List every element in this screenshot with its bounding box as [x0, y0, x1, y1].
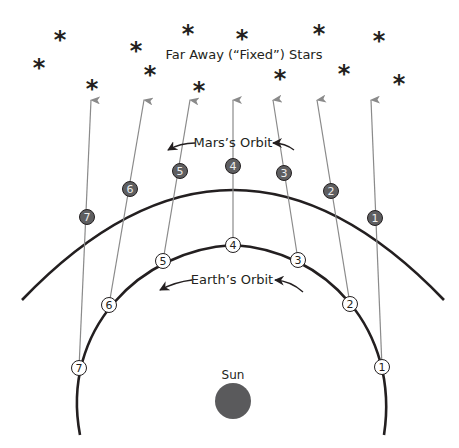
mars-position-7: 7	[79, 209, 95, 225]
star-icon: *	[274, 67, 287, 91]
star-icon: *	[338, 62, 351, 86]
star-icon: *	[373, 29, 386, 53]
star-icon: *	[54, 28, 67, 52]
mars-orbit-arrow-right	[273, 143, 294, 150]
star-icon: *	[130, 39, 143, 63]
earth-orbit-arrow-right	[275, 280, 303, 292]
mars-orbit-label: Mars’s Orbit	[194, 135, 273, 150]
star-icon: *	[313, 22, 326, 46]
star-icon: *	[182, 22, 195, 46]
star-icon: *	[193, 79, 206, 103]
earth-position-4: 4	[225, 237, 241, 253]
earth-position-7: 7	[71, 360, 87, 376]
retrograde-motion-diagram: Far Away (“Fixed”) Stars Mars’s Orbit Ea…	[0, 0, 459, 448]
star-icon: *	[236, 27, 249, 51]
mars-position-1: 1	[367, 210, 383, 226]
earth-position-5: 5	[155, 253, 171, 269]
sun-icon	[215, 383, 251, 419]
star-icon: *	[144, 63, 157, 87]
sight-line-7	[79, 100, 91, 368]
earth-position-3: 3	[290, 252, 306, 268]
star-icon: *	[86, 77, 99, 101]
mars-position-4: 4	[225, 158, 241, 174]
sun-label: Sun	[222, 368, 245, 382]
sight-line-6	[109, 100, 144, 305]
sight-line-1	[371, 100, 382, 367]
star-icon: *	[393, 72, 406, 96]
star-icon: *	[33, 56, 46, 80]
mars-position-3: 3	[276, 165, 292, 181]
earth-orbit-label: Earth’s Orbit	[191, 272, 273, 287]
mars-position-2: 2	[323, 183, 339, 199]
earth-orbit-arrow-left	[160, 280, 192, 290]
sight-line-5	[163, 100, 190, 261]
earth-position-6: 6	[101, 297, 117, 313]
mars-position-6: 6	[122, 181, 138, 197]
earth-position-2: 2	[342, 296, 358, 312]
mars-position-5: 5	[172, 163, 188, 179]
earth-position-1: 1	[374, 359, 390, 375]
sight-line-2	[317, 100, 350, 304]
